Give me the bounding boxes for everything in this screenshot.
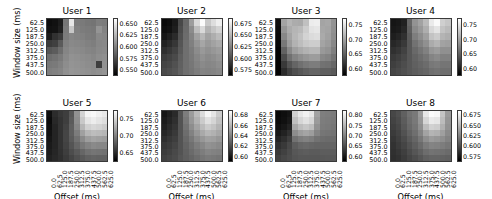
heatmap-user-6 bbox=[161, 110, 223, 162]
x-tick-labels: 0.062.5125.0187.5250.0312.5375.0437.5500… bbox=[46, 164, 108, 190]
y-tick-label: 500.0 bbox=[255, 69, 273, 75]
heatmap-cell bbox=[445, 26, 450, 33]
heatmap-cell bbox=[102, 47, 107, 54]
heatmap-cell bbox=[102, 54, 107, 61]
colorbar-tick-labels: 0.6750.6500.6250.6000.575 bbox=[463, 110, 485, 162]
panel-title: User 3 bbox=[275, 6, 337, 16]
y-tick-labels: 62.5125.0187.5250.0312.5375.0437.5500.0 bbox=[16, 111, 44, 161]
heatmap-cell bbox=[216, 26, 221, 33]
heatmap-cell bbox=[331, 26, 336, 33]
x-tick-label: 625.0 bbox=[108, 170, 114, 188]
heatmap-cell bbox=[216, 68, 221, 75]
heatmap-cell bbox=[216, 19, 221, 26]
y-tick-label: 500.0 bbox=[369, 69, 387, 75]
y-tick-label: 500.0 bbox=[140, 156, 158, 162]
colorbar bbox=[457, 18, 462, 76]
colorbar bbox=[342, 110, 347, 162]
heatmap-cell bbox=[331, 54, 336, 61]
panel-title: User 6 bbox=[161, 98, 223, 108]
y-tick-label: 500.0 bbox=[140, 69, 158, 75]
x-tick-labels: 0.062.5125.0187.5250.0312.5375.0437.5500… bbox=[161, 164, 223, 190]
y-tick-labels: 62.5125.0187.5250.0312.5375.0437.5500.0 bbox=[131, 111, 159, 161]
heatmap-user-5 bbox=[46, 110, 108, 162]
y-tick-labels: 62.5125.0187.5250.0312.5375.0437.5500.0 bbox=[245, 111, 273, 161]
heatmap-cell bbox=[445, 68, 450, 75]
colorbar-tick-label: 0.70 bbox=[463, 37, 477, 43]
colorbar bbox=[228, 110, 233, 162]
colorbar bbox=[113, 110, 118, 162]
heatmap-cell bbox=[216, 61, 221, 68]
heatmap-cell bbox=[445, 155, 450, 161]
colorbar bbox=[457, 110, 462, 162]
y-tick-labels: 62.5125.0187.5250.0312.5375.0437.5500.0 bbox=[360, 111, 388, 161]
x-tick-labels: 0.062.5125.0187.5250.0312.5375.0437.5500… bbox=[275, 164, 337, 190]
panel-title: User 7 bbox=[275, 98, 337, 108]
heatmap-cell bbox=[331, 155, 336, 161]
x-tick-labels: 0.062.5125.0187.5250.0312.5375.0437.5500… bbox=[390, 164, 452, 190]
y-tick-labels: 62.5125.0187.5250.0312.5375.0437.5500.0 bbox=[360, 19, 388, 75]
heatmap-cell bbox=[102, 26, 107, 33]
panel-title: User 5 bbox=[46, 98, 108, 108]
heatmap-cell bbox=[102, 33, 107, 40]
heatmap-cell bbox=[331, 40, 336, 47]
colorbar-tick-label: 0.600 bbox=[463, 143, 481, 149]
heatmap-user-7 bbox=[275, 110, 337, 162]
y-tick-label: 500.0 bbox=[369, 156, 387, 162]
y-tick-label: 500.0 bbox=[255, 156, 273, 162]
colorbar-tick-labels: 0.750.700.650.60 bbox=[463, 18, 485, 76]
colorbar-tick-label: 0.650 bbox=[463, 122, 481, 128]
panel-title: User 4 bbox=[390, 6, 452, 16]
heatmap-cell bbox=[216, 155, 221, 161]
x-tick-label: 625.0 bbox=[451, 170, 457, 188]
heatmap-cell bbox=[445, 54, 450, 61]
colorbar-tick-label: 0.575 bbox=[463, 154, 481, 160]
heatmap-cell bbox=[331, 68, 336, 75]
x-axis-label: Offset (ms) bbox=[161, 192, 223, 199]
heatmap-cell bbox=[216, 54, 221, 61]
colorbar bbox=[342, 18, 347, 76]
colorbar-tick-label: 0.625 bbox=[463, 133, 481, 139]
heatmap-cell bbox=[331, 33, 336, 40]
colorbar bbox=[113, 18, 118, 76]
heatmap-cell bbox=[102, 61, 107, 68]
heatmap-cell bbox=[102, 40, 107, 47]
heatmap-user-2 bbox=[161, 18, 223, 76]
heatmap-cell bbox=[331, 61, 336, 68]
colorbar-tick-label: 0.60 bbox=[463, 66, 477, 72]
heatmap-cell bbox=[445, 33, 450, 40]
colorbar-tick-label: 0.675 bbox=[463, 112, 481, 118]
heatmap-user-8 bbox=[390, 110, 452, 162]
heatmap-cell bbox=[216, 47, 221, 54]
y-tick-label: 500.0 bbox=[26, 69, 44, 75]
colorbar bbox=[228, 18, 233, 76]
panel-title: User 1 bbox=[46, 6, 108, 16]
figure-heatmap-grid: Window size (ms)62.5125.0187.5250.0312.5… bbox=[0, 0, 492, 199]
heatmap-cell bbox=[102, 155, 107, 161]
heatmap-cell bbox=[216, 33, 221, 40]
x-axis-label: Offset (ms) bbox=[390, 192, 452, 199]
y-tick-labels: 62.5125.0187.5250.0312.5375.0437.5500.0 bbox=[131, 19, 159, 75]
colorbar-tick-label: 0.75 bbox=[463, 22, 477, 28]
heatmap-cell bbox=[445, 61, 450, 68]
x-tick-label: 625.0 bbox=[337, 170, 343, 188]
heatmap-cell bbox=[445, 19, 450, 26]
y-tick-labels: 62.5125.0187.5250.0312.5375.0437.5500.0 bbox=[245, 19, 273, 75]
heatmap-cell bbox=[445, 40, 450, 47]
heatmap-cell bbox=[445, 47, 450, 54]
x-axis-label: Offset (ms) bbox=[275, 192, 337, 199]
heatmap-user-1 bbox=[46, 18, 108, 76]
x-axis-label: Offset (ms) bbox=[46, 192, 108, 199]
heatmap-cell bbox=[102, 19, 107, 26]
colorbar-tick-label: 0.65 bbox=[463, 51, 477, 57]
y-tick-labels: 62.5125.0187.5250.0312.5375.0437.5500.0 bbox=[16, 19, 44, 75]
heatmap-cell bbox=[216, 40, 221, 47]
heatmap-cell bbox=[331, 47, 336, 54]
x-tick-label: 625.0 bbox=[222, 170, 228, 188]
heatmap-user-3 bbox=[275, 18, 337, 76]
panel-title: User 2 bbox=[161, 6, 223, 16]
y-tick-label: 500.0 bbox=[26, 156, 44, 162]
heatmap-cell bbox=[331, 19, 336, 26]
heatmap-user-4 bbox=[390, 18, 452, 76]
panel-title: User 8 bbox=[390, 98, 452, 108]
heatmap-cell bbox=[102, 68, 107, 75]
